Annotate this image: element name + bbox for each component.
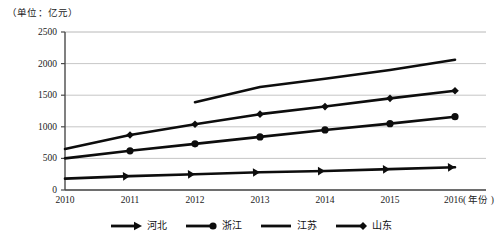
legend-label: 山东 — [372, 220, 392, 232]
marker-diamond — [256, 110, 264, 118]
x-tick-label: 2016( 年份 ) — [433, 195, 501, 206]
plot-area: 05001000150020002500 2010201120122013201… — [0, 0, 501, 243]
marker-circle — [256, 133, 263, 140]
marker-arrow — [123, 172, 130, 181]
marker-circle — [191, 140, 198, 147]
legend-label: 江苏 — [297, 220, 317, 232]
chart-svg — [0, 0, 501, 243]
marker-circle — [126, 147, 133, 154]
marker-circle — [321, 126, 328, 133]
marker-circle — [451, 113, 458, 120]
legend-symbol-arrow-icon — [109, 220, 143, 232]
y-tick-label: 1000 — [19, 122, 57, 132]
marker-diamond — [386, 95, 394, 103]
marker-arrow — [188, 170, 195, 179]
x-tick-label: 2014 — [303, 195, 347, 206]
x-tick-label: 2012 — [173, 195, 217, 206]
legend-item-河北[interactable]: 河北 — [109, 220, 167, 232]
chart-legend: 河北浙江江苏山东 — [0, 214, 501, 238]
legend-item-浙江[interactable]: 浙江 — [184, 220, 242, 232]
marker-diamond — [126, 131, 134, 139]
series-layer — [65, 60, 459, 181]
y-tick-label: 2000 — [19, 59, 57, 69]
legend-label: 浙江 — [222, 220, 242, 232]
x-tick-label: 2013 — [238, 195, 282, 206]
marker-diamond — [321, 103, 329, 111]
legend-symbol-circle-icon — [184, 220, 218, 232]
y-tick-label: 500 — [19, 153, 57, 163]
legend-item-江苏[interactable]: 江苏 — [259, 220, 317, 232]
marker-circle — [386, 120, 393, 127]
marker-diamond — [451, 87, 459, 95]
gridlines — [65, 32, 486, 190]
legend-symbol-diamond-icon — [334, 220, 368, 232]
axis-lines — [61, 32, 486, 190]
x-tick-label: 2010 — [43, 195, 87, 206]
marker-arrow — [253, 168, 260, 177]
marker-arrow — [383, 165, 390, 174]
y-tick-label: 1500 — [19, 90, 57, 100]
marker-arrow — [318, 167, 325, 176]
legend-symbol-none-icon — [259, 220, 293, 232]
y-tick-label: 2500 — [19, 27, 57, 37]
legend-item-山东[interactable]: 山东 — [334, 220, 392, 232]
x-tick-label: 2015 — [368, 195, 412, 206]
y-tick-label: 0 — [19, 185, 57, 195]
x-tick-label: 2011 — [108, 195, 152, 206]
chart-root: （单位：亿元） 05001000150020002500 20102011201… — [0, 0, 501, 243]
legend-label: 河北 — [147, 220, 167, 232]
marker-arrow — [448, 163, 455, 172]
